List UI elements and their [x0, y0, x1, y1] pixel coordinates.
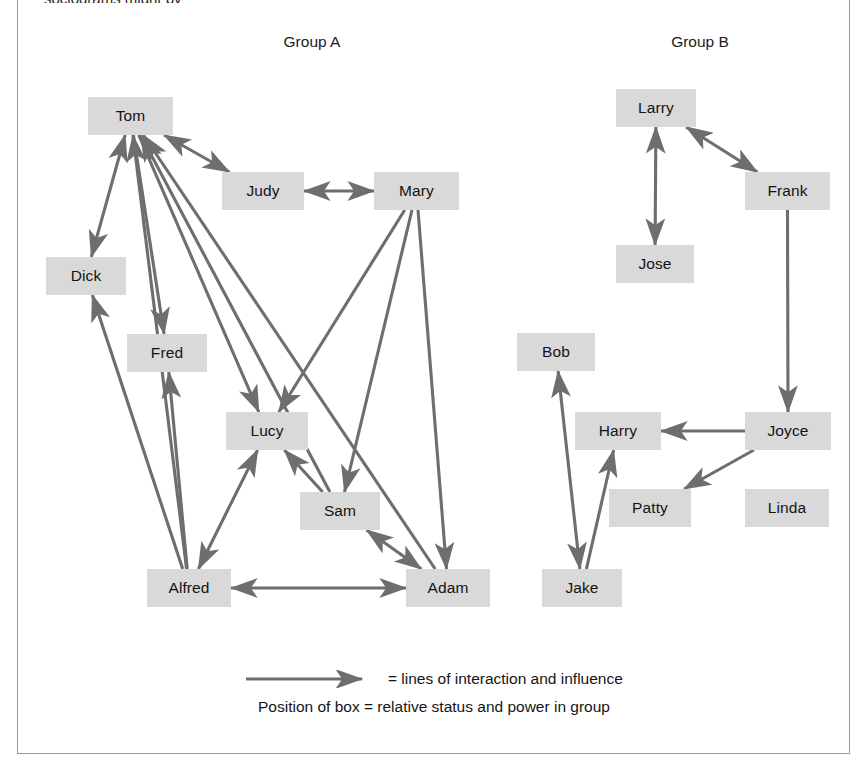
node-sam[interactable]: Sam [300, 492, 380, 530]
arrow-right-icon [244, 670, 374, 688]
legend-row-arrow: = lines of interaction and influence [0, 662, 868, 696]
clipped-caption-text: sociograms might by [44, 0, 744, 3]
node-adam[interactable]: Adam [406, 569, 490, 607]
node-linda[interactable]: Linda [745, 489, 829, 527]
node-label: Sam [324, 502, 356, 520]
sociogram-figure: sociograms might by Group A Group B TomJ… [0, 0, 868, 777]
node-label: Joyce [768, 422, 809, 440]
node-judy[interactable]: Judy [222, 172, 304, 210]
node-label: Patty [632, 499, 668, 517]
node-label: Linda [768, 499, 806, 517]
node-label: Lucy [250, 422, 283, 440]
group-a-label: Group A [232, 33, 392, 51]
node-tom[interactable]: Tom [88, 97, 173, 135]
node-harry[interactable]: Harry [575, 412, 661, 450]
node-mary[interactable]: Mary [374, 172, 459, 210]
node-label: Dick [71, 267, 102, 285]
node-patty[interactable]: Patty [609, 489, 691, 527]
node-label: Tom [116, 107, 146, 125]
node-jose[interactable]: Jose [616, 245, 694, 283]
node-fred[interactable]: Fred [127, 334, 207, 372]
node-label: Adam [428, 579, 469, 597]
node-alfred[interactable]: Alfred [147, 569, 231, 607]
node-label: Alfred [168, 579, 209, 597]
node-bob[interactable]: Bob [517, 333, 595, 371]
node-larry[interactable]: Larry [616, 89, 696, 127]
node-label: Frank [767, 182, 807, 200]
node-label: Bob [542, 343, 570, 361]
node-jake[interactable]: Jake [542, 569, 622, 607]
node-label: Jose [638, 255, 671, 273]
legend-line-position: Position of box = relative status and po… [0, 698, 868, 716]
node-frank[interactable]: Frank [745, 172, 830, 210]
node-label: Harry [599, 422, 637, 440]
legend-line-interaction: = lines of interaction and influence [388, 670, 623, 688]
node-label: Jake [565, 579, 598, 597]
node-label: Fred [151, 344, 183, 362]
node-label: Mary [399, 182, 434, 200]
node-lucy[interactable]: Lucy [226, 412, 308, 450]
node-dick[interactable]: Dick [46, 257, 126, 295]
node-label: Larry [638, 99, 674, 117]
group-b-label: Group B [620, 33, 780, 51]
node-joyce[interactable]: Joyce [745, 412, 831, 450]
node-label: Judy [246, 182, 279, 200]
